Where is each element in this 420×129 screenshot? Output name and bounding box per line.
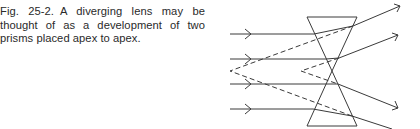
diverging-lens-diagram — [0, 0, 420, 129]
lower-prism — [307, 71, 357, 126]
virtual-rays-dashed — [230, 26, 353, 116]
upper-prism — [307, 17, 357, 71]
incoming-rays — [230, 29, 338, 114]
outgoing-rays — [338, 4, 400, 129]
